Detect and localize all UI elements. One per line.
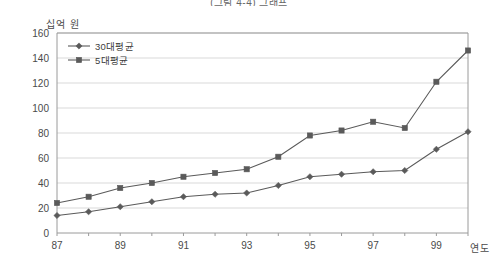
data-point-marker-square: [371, 119, 376, 124]
y-axis-tick-label: 140: [32, 53, 49, 64]
x-axis-ticks-group: 87899193959799: [51, 233, 468, 251]
series-line: [57, 132, 468, 216]
y-axis-tick-label: 20: [38, 203, 50, 214]
data-point-marker-diamond: [307, 174, 313, 180]
y-axis-tick-label: 80: [38, 128, 50, 139]
line-chart-plot: 020406080100120140160 87899193959799 30대…: [0, 0, 498, 277]
data-point-marker-diamond: [76, 43, 82, 49]
data-point-marker-square: [276, 154, 281, 159]
data-point-marker-diamond: [86, 209, 92, 215]
chart-series: [54, 129, 471, 219]
data-point-marker-square: [212, 170, 217, 175]
x-axis-tick-label: 93: [241, 240, 253, 251]
data-point-marker-square: [434, 79, 439, 84]
data-point-marker-diamond: [402, 167, 408, 173]
legend-group: 30대평균5대평균: [68, 41, 134, 66]
x-axis-tick-label: 95: [304, 240, 316, 251]
data-point-marker-diamond: [338, 171, 344, 177]
x-axis-tick-label: 89: [115, 240, 127, 251]
legend-item-label: 5대평균: [95, 55, 128, 66]
x-axis-tick-label: 91: [178, 240, 190, 251]
data-point-marker-diamond: [54, 212, 60, 218]
y-axis-tick-label: 40: [38, 178, 50, 189]
chart-container: (그림 4-4) 그래프 십억 원 연도 0204060801001201401…: [0, 0, 498, 277]
data-point-marker-square: [402, 125, 407, 130]
chart-title: (그림 4-4) 그래프: [0, 0, 498, 6]
y-axis-ticks-group: 020406080100120140160: [32, 28, 49, 239]
data-point-marker-diamond: [180, 194, 186, 200]
x-axis-tick-label: 87: [51, 240, 63, 251]
data-point-marker-square: [54, 200, 59, 205]
data-point-marker-square: [86, 194, 91, 199]
data-point-marker-square: [181, 174, 186, 179]
chart-series: [54, 48, 470, 206]
data-point-marker-diamond: [370, 169, 376, 175]
data-point-marker-diamond: [465, 129, 471, 135]
data-point-marker-square: [149, 180, 154, 185]
data-point-marker-square: [244, 167, 249, 172]
y-axis-unit-label: 십억 원: [46, 16, 80, 31]
y-axis-tick-label: 100: [32, 103, 49, 114]
y-axis-tick-label: 60: [38, 153, 50, 164]
data-point-marker-square: [339, 128, 344, 133]
y-axis-tick-label: 120: [32, 78, 49, 89]
data-point-marker-diamond: [244, 190, 250, 196]
data-point-marker-diamond: [212, 191, 218, 197]
legend-item-label: 30대평균: [95, 41, 134, 52]
data-point-marker-square: [465, 48, 470, 53]
data-point-marker-diamond: [433, 146, 439, 152]
x-axis-tick-label: 99: [431, 240, 443, 251]
data-point-marker-square: [76, 57, 81, 62]
y-axis-tick-label: 0: [43, 228, 49, 239]
data-point-marker-diamond: [149, 199, 155, 205]
x-axis-tick-label: 97: [368, 240, 380, 251]
x-axis-unit-label: 연도: [470, 240, 490, 255]
data-point-marker-diamond: [117, 204, 123, 210]
data-point-marker-square: [307, 133, 312, 138]
data-point-marker-square: [118, 185, 123, 190]
